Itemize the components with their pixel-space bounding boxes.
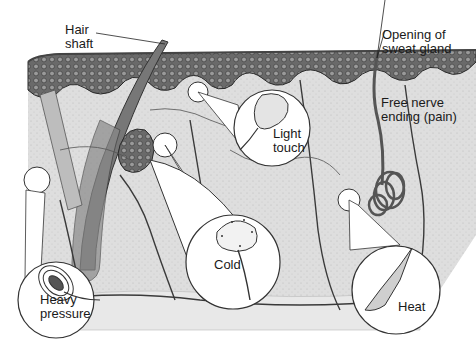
label-sweat-gland: Opening of sweat gland bbox=[382, 28, 451, 56]
label-hair-shaft: Hair shaft bbox=[65, 23, 93, 51]
callout-heat bbox=[352, 246, 440, 334]
small-receptor-c bbox=[24, 167, 50, 193]
leader-hair-shaft bbox=[96, 33, 165, 44]
label-cold: Cold bbox=[214, 258, 241, 272]
skin-receptor-diagram: Hair shaft Opening of sweat gland Free n… bbox=[0, 0, 476, 357]
label-free-nerve-ending: Free nerve ending (pain) bbox=[381, 96, 457, 124]
label-heavy-pressure: Heavy pressure bbox=[40, 293, 91, 321]
label-heat: Heat bbox=[398, 300, 425, 314]
label-light-touch: Light touch bbox=[273, 127, 305, 155]
